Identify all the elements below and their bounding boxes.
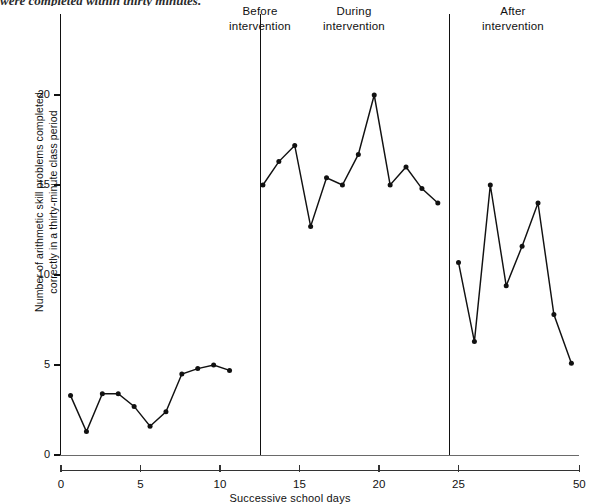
x-tick-label: 25 [439, 478, 479, 490]
x-tick-label: 20 [359, 478, 399, 490]
x-tick-mark [378, 465, 379, 472]
y-tick-label: 0 [24, 448, 50, 460]
data-point [100, 391, 105, 396]
data-point [569, 361, 574, 366]
series-line [263, 95, 438, 226]
data-point [435, 201, 440, 206]
y-axis-title: Number of arithmetic skill problems comp… [32, 52, 60, 352]
y-axis-title-line1: Number of arithmetic skill problems comp… [32, 52, 46, 352]
data-point [536, 201, 541, 206]
data-point [356, 152, 361, 157]
data-point [132, 404, 137, 409]
data-point [488, 183, 493, 188]
data-point [260, 183, 265, 188]
y-axis-title-line2: correctly in a thirty-minute class perio… [46, 52, 60, 352]
data-point [148, 424, 153, 429]
y-tick-label: 5 [24, 358, 50, 370]
data-point [340, 183, 345, 188]
data-point [520, 244, 525, 249]
data-point [324, 175, 329, 180]
series-canvas [61, 14, 580, 455]
series-line [71, 365, 230, 432]
data-point [84, 429, 89, 434]
data-point [211, 363, 216, 368]
x-axis-baseline [60, 455, 579, 456]
data-point [292, 143, 297, 148]
x-tick-mark [458, 465, 459, 472]
x-tick-mark [219, 465, 220, 472]
series-line [459, 185, 572, 363]
data-point [179, 372, 184, 377]
x-tick-label: 50 [559, 478, 590, 490]
x-tick-label: 0 [41, 478, 81, 490]
x-axis-scale-bar [61, 470, 579, 471]
y-tick-mark [54, 364, 60, 365]
data-point [372, 93, 377, 98]
x-tick-label: 15 [280, 478, 320, 490]
data-point [388, 183, 393, 188]
x-tick-mark [140, 465, 141, 472]
data-point [551, 312, 556, 317]
x-tick-mark [579, 465, 580, 472]
data-point [116, 391, 121, 396]
x-tick-mark [60, 465, 61, 472]
plot-area [61, 14, 580, 455]
data-point [472, 339, 477, 344]
data-point [276, 159, 281, 164]
x-tick-mark [299, 465, 300, 472]
x-tick-label: 5 [121, 478, 161, 490]
data-point [68, 393, 73, 398]
x-tick-label: 10 [200, 478, 240, 490]
phase-divider [449, 14, 450, 455]
data-point [456, 260, 461, 265]
data-point [419, 186, 424, 191]
data-point [195, 366, 200, 371]
x-axis-title: Successive school days [0, 492, 580, 504]
phase-divider [260, 14, 261, 455]
data-point [227, 368, 232, 373]
data-point [163, 409, 168, 414]
data-point [504, 283, 509, 288]
data-point [308, 224, 313, 229]
data-point [404, 165, 409, 170]
